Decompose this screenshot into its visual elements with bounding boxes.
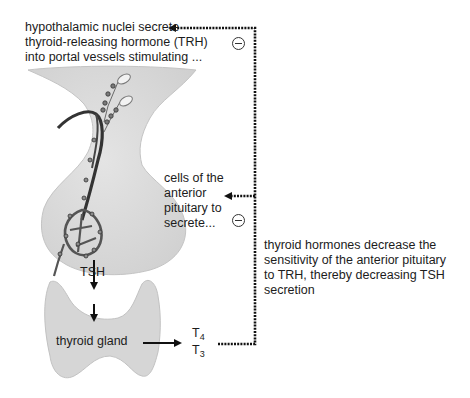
feedback-note-line: thyroid hormones decrease the <box>264 238 446 253</box>
t3-subscript: 3 <box>200 349 205 359</box>
tsh-label: TSH <box>80 265 105 280</box>
t4-subscript: 4 <box>200 332 205 342</box>
hypothalamus-label: hypothalamic nuclei secrete thyroid-rele… <box>25 20 208 65</box>
thyroid-gland-shape <box>45 280 161 377</box>
anterior-pituitary-label: cells of the anterior pituitary to secre… <box>164 171 224 231</box>
feedback-note: thyroid hormones decrease the sensitivit… <box>264 238 446 298</box>
inhibition-minus-icon <box>232 214 245 227</box>
t3-base: T <box>192 343 200 357</box>
hypothalamus-label-line: hypothalamic nuclei secrete <box>25 20 208 35</box>
anterior-pituitary-label-line: secrete... <box>164 216 224 231</box>
feedback-note-line: sensitivity of the anterior pituitary <box>264 253 446 268</box>
hypothalamus-label-line: into portal vessels stimulating ... <box>25 50 208 65</box>
anterior-pituitary-label-line: cells of the <box>164 171 224 186</box>
feedback-note-line: secretion <box>264 283 446 298</box>
feedback-arrowhead-pituitary <box>224 192 232 200</box>
t3-label: T3 <box>192 343 205 362</box>
anterior-pituitary-label-line: pituitary to <box>164 201 224 216</box>
thyroid-gland-label: thyroid gland <box>56 334 128 349</box>
anterior-pituitary-label-line: anterior <box>164 186 224 201</box>
feedback-note-line: to TRH, thereby decreasing TSH <box>264 268 446 283</box>
hypothalamus-label-line: thyroid-releasing hormone (TRH) <box>25 35 208 50</box>
inhibition-minus-icon <box>232 37 245 50</box>
t4-base: T <box>192 326 200 340</box>
